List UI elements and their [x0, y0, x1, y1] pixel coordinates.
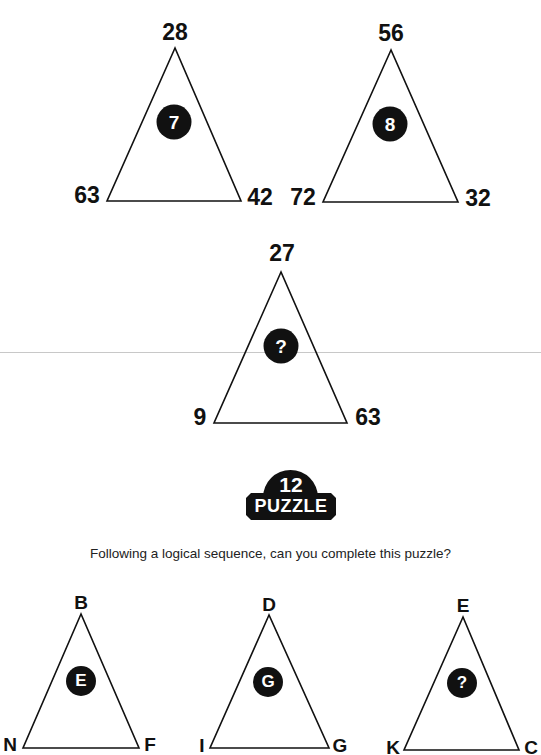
triangle-right-value: 32 [465, 187, 491, 210]
triangle-unknown-badge: ? [264, 329, 299, 364]
triangle-top-value: 27 [269, 242, 295, 265]
triangle-top-letter: B [74, 593, 88, 612]
triangle-right-value: 42 [247, 186, 273, 209]
triangle-outlines [0, 0, 541, 755]
triangle-center-badge: G [253, 667, 283, 697]
triangle-right-letter: F [144, 735, 156, 754]
puzzle-label: PUZZLE [246, 497, 336, 515]
triangle-left-value: 72 [290, 186, 316, 209]
triangle-left-value: 9 [194, 406, 207, 429]
triangle-left-letter: K [386, 738, 400, 755]
triangle-center-badge: 7 [157, 105, 192, 140]
triangle-top-letter: E [457, 596, 470, 615]
triangle-top-value: 56 [378, 22, 404, 45]
triangle-top-letter: D [262, 595, 276, 614]
triangle-left-value: 63 [74, 184, 100, 207]
triangle-unknown-badge: ? [447, 668, 477, 698]
puzzle-instruction: Following a logical sequence, can you co… [0, 546, 541, 561]
triangle-center-badge: E [66, 666, 96, 696]
triangle-right-letter: C [524, 738, 538, 755]
triangle-right-value: 63 [355, 406, 381, 429]
triangle-left-letter: N [3, 735, 17, 754]
puzzle-number: 12 [246, 474, 336, 495]
triangle-top-value: 28 [162, 21, 188, 44]
triangle-left-letter: I [199, 736, 204, 755]
triangle-right-letter: G [333, 736, 348, 755]
puzzle-number-badge: 12 PUZZLE [246, 470, 336, 526]
triangle-center-badge: 8 [373, 107, 408, 142]
